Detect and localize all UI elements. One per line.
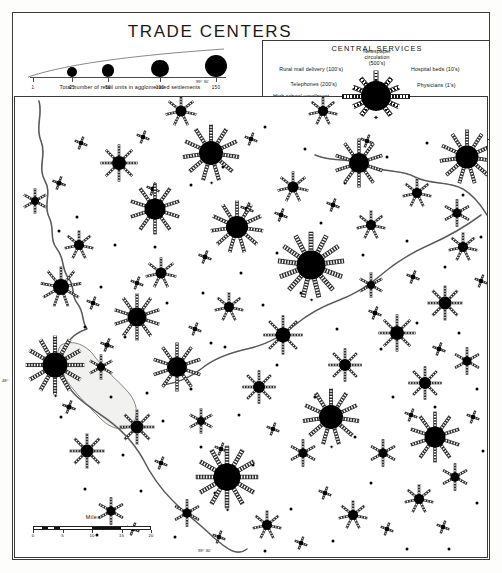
trade-center-symbol[interactable] — [249, 137, 253, 141]
trade-center-symbol[interactable] — [414, 494, 424, 504]
trade-center-symbol[interactable] — [79, 141, 83, 145]
central-services-label: Hospital beds (10's) — [411, 66, 460, 72]
trade-center-symbol[interactable] — [437, 347, 442, 352]
trade-center-symbol[interactable] — [390, 326, 404, 340]
settlement-dot — [354, 436, 357, 439]
trade-center-symbol[interactable] — [276, 328, 291, 343]
trade-center-symbol[interactable] — [339, 359, 351, 371]
trade-center-symbol[interactable] — [331, 203, 336, 208]
trade-center-symbol[interactable] — [349, 153, 369, 173]
trade-center-symbol[interactable] — [91, 301, 95, 305]
trade-center-symbol[interactable] — [288, 182, 299, 193]
settlement-dot — [406, 240, 409, 243]
trade-center-symbol[interactable] — [217, 535, 221, 539]
trade-center-symbol[interactable] — [456, 146, 479, 169]
miles-tick-label: 10 — [90, 533, 95, 538]
trade-center-symbol[interactable] — [409, 413, 413, 417]
trade-center-symbol[interactable] — [348, 510, 358, 520]
trade-center-symbol[interactable] — [31, 197, 39, 205]
central-services-hub-circle — [361, 81, 391, 111]
trade-center-symbol[interactable] — [199, 141, 223, 165]
trade-center-symbol[interactable] — [441, 525, 445, 529]
central-services-label: Newspaper circulation (500's) — [363, 48, 391, 66]
settlement-dot — [264, 126, 267, 129]
trade-center-symbol[interactable] — [366, 220, 376, 230]
trade-center-symbol[interactable] — [112, 156, 126, 170]
trade-center-symbol[interactable] — [323, 491, 327, 495]
trade-center-symbol[interactable] — [471, 415, 475, 419]
trade-center-symbol[interactable] — [271, 427, 275, 431]
trade-center-symbol[interactable] — [203, 255, 208, 260]
settlement-dot — [476, 388, 479, 391]
settlement-dot — [190, 388, 193, 391]
settlement-dot — [76, 216, 79, 219]
trade-center-symbol[interactable] — [81, 445, 94, 458]
settlement-dot — [96, 534, 99, 537]
trade-center-symbol[interactable] — [463, 357, 472, 366]
settlement-dot — [362, 254, 365, 257]
settlement-dot — [140, 490, 143, 493]
central-services-label: Physicians (1's) — [417, 82, 456, 88]
trade-center-symbol[interactable] — [183, 509, 192, 518]
trade-center-symbol[interactable] — [197, 417, 205, 425]
miles-tick-label: 20 — [149, 533, 154, 538]
trade-center-symbol[interactable] — [419, 377, 431, 389]
trade-center-symbol[interactable] — [299, 449, 308, 458]
graticule-label: 48° — [2, 378, 8, 383]
trade-center-symbol[interactable] — [135, 281, 139, 285]
trade-center-symbol[interactable] — [214, 464, 241, 491]
settlement-dot — [462, 194, 465, 197]
trade-center-symbol[interactable] — [193, 327, 197, 331]
trade-center-symbol[interactable] — [279, 213, 284, 218]
trade-center-symbol[interactable] — [299, 541, 303, 545]
trade-center-symbol[interactable] — [458, 242, 468, 252]
trade-center-symbol[interactable] — [219, 447, 223, 451]
trade-center-symbol[interactable] — [141, 135, 145, 139]
trade-center-symbol[interactable] — [297, 251, 326, 280]
trade-centers-map-page: TRADE CENTERS 12550100150 Total number o… — [0, 0, 502, 573]
trade-center-symbol[interactable] — [53, 279, 69, 295]
trade-center-symbol[interactable] — [74, 240, 84, 250]
trade-center-symbol[interactable] — [439, 297, 452, 310]
trade-center-symbol[interactable] — [319, 405, 343, 429]
trade-center-symbol[interactable] — [43, 353, 68, 378]
trade-center-symbol[interactable] — [253, 381, 265, 393]
size-legend-caption: Total number of retail units in agglomer… — [24, 84, 236, 90]
trade-center-symbol[interactable] — [373, 311, 378, 316]
settlement-dot — [200, 446, 203, 449]
settlement-dot — [448, 548, 451, 551]
trade-center-symbol[interactable] — [145, 199, 166, 220]
trade-center-symbol[interactable] — [66, 404, 71, 409]
settlement-dot — [174, 536, 177, 539]
trade-center-symbol[interactable] — [167, 357, 187, 377]
trade-center-symbol[interactable] — [226, 216, 248, 238]
map-panel[interactable]: ✦✦✦✦✦ — [14, 96, 488, 558]
trade-center-symbol[interactable] — [56, 180, 61, 185]
trade-center-symbol[interactable] — [479, 279, 483, 283]
settlement-dot — [426, 142, 429, 145]
trade-center-symbol[interactable] — [97, 363, 105, 371]
settlement-dot — [458, 332, 461, 335]
settlement-dot — [320, 222, 323, 225]
settlement-dot — [476, 502, 479, 505]
trade-center-symbol[interactable] — [128, 308, 147, 327]
trade-center-symbol[interactable] — [412, 188, 422, 198]
trade-center-symbol[interactable] — [159, 461, 163, 465]
trade-center-symbol[interactable] — [224, 302, 234, 312]
trade-center-symbol[interactable] — [453, 209, 462, 218]
trade-center-symbol[interactable] — [104, 342, 109, 347]
trade-center-symbol[interactable] — [365, 139, 369, 143]
trade-center-symbol[interactable] — [318, 106, 328, 116]
trade-center-symbol[interactable] — [451, 473, 460, 482]
trade-center-symbol[interactable] — [131, 421, 144, 434]
trade-center-symbol[interactable] — [379, 449, 388, 458]
trade-center-symbol[interactable] — [156, 268, 167, 279]
trade-center-symbol[interactable] — [425, 427, 446, 448]
trade-center-symbol[interactable] — [262, 520, 272, 530]
trade-center-symbol[interactable] — [385, 527, 389, 531]
trade-center-symbol[interactable] — [367, 281, 375, 289]
settlement-dot — [304, 148, 307, 151]
trade-center-symbol[interactable] — [176, 106, 187, 117]
trade-center-symbol[interactable] — [411, 275, 416, 280]
settlement-dot — [386, 156, 389, 159]
